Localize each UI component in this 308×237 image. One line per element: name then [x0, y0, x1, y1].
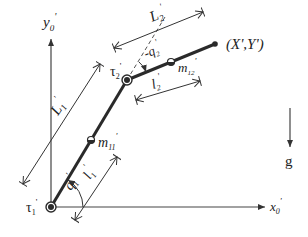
dimension-L2-label: L2'	[145, 1, 168, 27]
joint-2-icon	[122, 75, 132, 85]
end-effector-point	[212, 41, 218, 47]
joint-2-torque-label: τ2'	[110, 61, 122, 81]
joint-1-torque-label: τ1'	[26, 197, 38, 217]
dimension-L1	[23, 64, 100, 184]
angle-q2-arc	[139, 62, 146, 72]
mass-1-label: m11'	[98, 131, 119, 152]
joint-1-icon	[46, 202, 56, 212]
dimension-l2	[136, 81, 200, 100]
angle-q2-label: -q2'	[140, 37, 164, 63]
dimension-l2-label: l2'	[149, 71, 165, 94]
x-axis-label: x0'	[269, 196, 283, 216]
mass-2-label: m12'	[178, 56, 197, 77]
mass-1-marker-icon	[88, 137, 95, 144]
end-effector-label: (X',Y')	[226, 36, 264, 53]
dimension-l1-label: l1'	[77, 162, 101, 183]
y-axis-label: y0'	[41, 11, 57, 33]
mass-2-marker-icon	[168, 59, 175, 66]
manipulator-diagram: y0' x0' g (X',Y') τ1' τ2' m11'	[0, 0, 308, 237]
dimension-l1	[75, 157, 117, 220]
gravity-label: g	[285, 153, 293, 169]
